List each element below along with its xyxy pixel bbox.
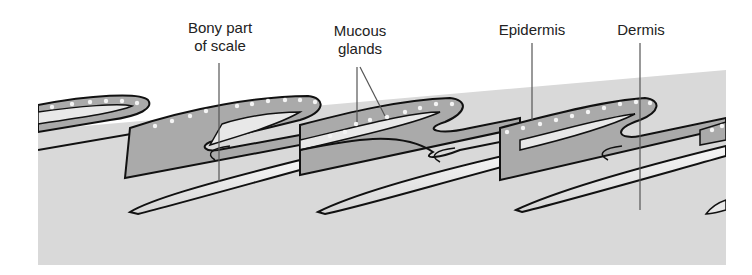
label-line: of scale <box>170 37 270 55</box>
label-line: Epidermis <box>484 21 580 39</box>
label-line: Dermis <box>603 21 679 39</box>
label-mucous-glands: Mucous glands <box>318 22 402 58</box>
label-line: Bony part <box>170 19 270 37</box>
label-epidermis: Epidermis <box>484 21 580 39</box>
label-line: glands <box>318 40 402 58</box>
label-line: Mucous <box>318 22 402 40</box>
label-bony-part: Bony part of scale <box>170 19 270 55</box>
label-dermis: Dermis <box>603 21 679 39</box>
